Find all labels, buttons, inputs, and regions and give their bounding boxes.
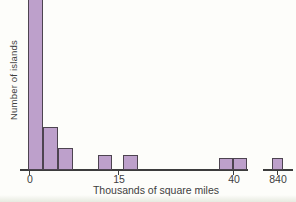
- histogram-bar: [28, 0, 43, 170]
- histogram-bar: [43, 127, 58, 170]
- islands-histogram: Number of islands 01540840 Thousands of …: [0, 0, 296, 202]
- x-axis-tick-label: 0: [27, 173, 33, 185]
- histogram-bar: [123, 155, 138, 170]
- histogram-bar: [219, 158, 233, 170]
- y-axis-title: Number of islands: [8, 40, 19, 120]
- histogram-bar: [272, 158, 283, 170]
- x-axis-tick-label: 840: [269, 173, 287, 185]
- histogram-bar: [98, 155, 112, 170]
- x-axis-tick-label: 40: [228, 173, 240, 185]
- histogram-bar: [58, 148, 73, 170]
- scan-artifact-band: [0, 195, 296, 202]
- x-axis-title: Thousands of square miles: [93, 184, 219, 196]
- histogram-bar: [233, 158, 247, 170]
- x-axis-tick-label: 15: [113, 173, 125, 185]
